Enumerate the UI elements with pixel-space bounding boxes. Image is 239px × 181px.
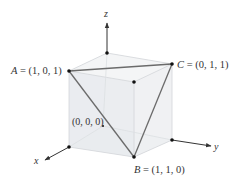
y-axis <box>172 140 211 146</box>
z-axis-label: z <box>103 8 108 19</box>
vertex-c <box>170 62 174 66</box>
unit-cube <box>69 53 172 157</box>
vertex-a <box>67 69 71 73</box>
vertex-1-0-0 <box>67 145 71 149</box>
vertex-0-1-0 <box>170 138 174 142</box>
x-axis <box>45 147 69 160</box>
x-axis-label: x <box>33 155 39 166</box>
point-a-label: A = (1, 0, 1) <box>10 65 62 77</box>
point-b-label: B = (1, 1, 0) <box>134 164 185 176</box>
origin-label: (0, 0, 0) <box>72 116 104 128</box>
vertex-b <box>132 155 136 159</box>
vertex-1-1-1 <box>132 80 136 84</box>
vertex-0-0-1 <box>105 51 109 55</box>
cube-diagram: z x y A = (1, 0, 1) C = (0, 1, 1) B = (1… <box>0 0 239 181</box>
y-axis-label: y <box>213 141 219 152</box>
point-c-label: C = (0, 1, 1) <box>177 59 229 71</box>
